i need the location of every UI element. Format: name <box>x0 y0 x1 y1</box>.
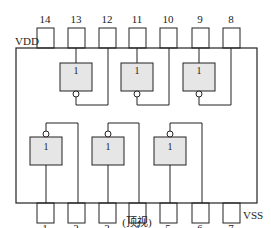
svg-text:1: 1 <box>168 141 173 152</box>
pin-label: 10 <box>163 13 175 25</box>
pin-label: 7 <box>228 222 234 228</box>
view-label: (顶视) <box>122 215 152 228</box>
pin-3 <box>99 203 116 223</box>
gate-g3: 1 <box>183 48 231 105</box>
pin-5 <box>160 203 177 223</box>
pin-label: 5 <box>165 222 171 228</box>
gate-g2: 1 <box>121 48 169 105</box>
pin-label: 6 <box>197 222 203 228</box>
pin-label: 3 <box>104 222 110 228</box>
pin-6 <box>192 203 209 223</box>
ic-pinout-diagram: 14 13 12 11 10 9 8 VDD VSS 1 1 1 <box>0 0 271 228</box>
svg-text:1: 1 <box>44 141 49 152</box>
svg-text:1: 1 <box>197 65 202 76</box>
pin-9 <box>192 28 209 48</box>
pin-label: 14 <box>40 13 52 25</box>
gate-g5: 1 <box>92 123 139 203</box>
svg-text:1: 1 <box>74 65 79 76</box>
vss-label: VSS <box>243 209 263 221</box>
pin-13 <box>68 28 85 48</box>
pin-14 <box>37 28 54 48</box>
pin-label: 11 <box>132 13 143 25</box>
pin-12 <box>99 28 116 48</box>
pin-label: 9 <box>197 13 203 25</box>
vdd-label: VDD <box>15 35 39 47</box>
svg-text:1: 1 <box>106 141 111 152</box>
pin-1 <box>37 203 54 223</box>
gate-g6: 1 <box>154 123 202 203</box>
svg-text:1: 1 <box>135 65 140 76</box>
gate-g4: 1 <box>30 123 78 203</box>
pin-label: 13 <box>71 13 83 25</box>
pin-2 <box>68 203 85 223</box>
top-pins <box>37 28 240 48</box>
pin-10 <box>160 28 177 48</box>
pin-7 <box>223 203 240 223</box>
pin-label: 12 <box>102 13 113 25</box>
pin-label: 1 <box>42 222 48 228</box>
gate-g1: 1 <box>60 48 108 105</box>
pin-label: 2 <box>73 222 79 228</box>
top-pin-labels: 14 13 12 11 10 9 8 <box>40 13 235 25</box>
pin-8 <box>223 28 240 48</box>
pin-11 <box>129 28 146 48</box>
pin-label: 8 <box>228 13 234 25</box>
